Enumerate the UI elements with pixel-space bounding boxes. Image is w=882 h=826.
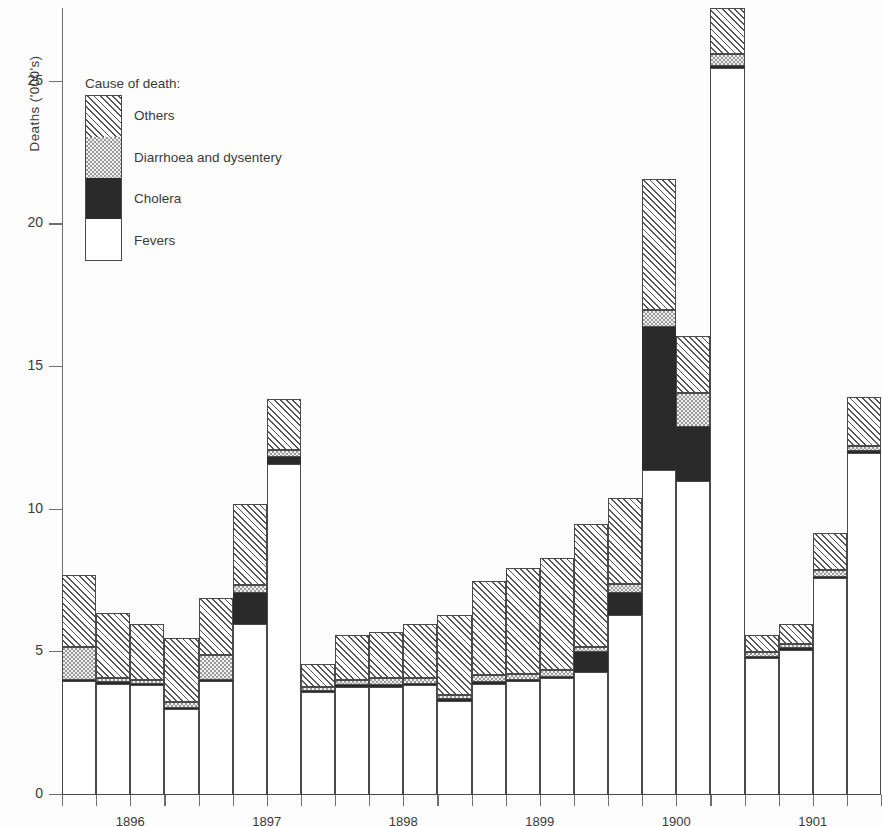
bar-segment-fevers	[62, 681, 96, 795]
bar-segment-cholera	[267, 457, 301, 464]
bar-segment-others	[301, 664, 335, 687]
bar-segment-fevers	[369, 687, 403, 795]
bar-segment-fevers	[540, 678, 574, 795]
y-tick-label-25: 25	[27, 72, 43, 88]
bar-segment-diarrhoea	[676, 393, 710, 427]
bar-segment-fevers	[779, 650, 813, 795]
bar-segment-others	[96, 613, 130, 679]
bar-segment-cholera	[608, 593, 642, 616]
bar-segment-diarrhoea	[403, 678, 437, 684]
bar-segment-others	[199, 598, 233, 655]
bar-segment-diarrhoea	[301, 687, 335, 691]
bar-segment-diarrhoea	[710, 54, 744, 67]
x-tick-6	[267, 795, 268, 806]
bar-segment-fevers	[267, 464, 301, 795]
legend-swatch-others	[86, 96, 121, 137]
bar-segment-fevers	[199, 681, 233, 795]
x-tick-10	[403, 795, 404, 806]
legend-label-diarrhoea: Diarrhoea and dysentery	[134, 137, 395, 179]
legend-label-cholera: Cholera	[134, 178, 395, 220]
x-tick-22	[813, 795, 814, 806]
x-tick-13	[506, 795, 507, 806]
x-tick-5	[233, 795, 234, 806]
bar-segment-fevers	[847, 453, 881, 795]
bar-segment-others	[369, 632, 403, 678]
x-tick-9	[369, 795, 370, 806]
bar-21	[779, 624, 813, 795]
bar-segment-diarrhoea	[233, 585, 267, 592]
bar-segment-fevers	[574, 672, 608, 795]
y-tick-label-20: 20	[27, 214, 43, 230]
bar-segment-diarrhoea	[164, 702, 198, 708]
legend: Cause of death: OthersDiarrhoea and dyse…	[85, 76, 395, 261]
bar-segment-diarrhoea	[96, 678, 130, 682]
bar-segment-fevers	[813, 578, 847, 795]
bar-3	[164, 638, 198, 795]
y-tick-25: 25	[49, 81, 62, 82]
bar-9	[369, 632, 403, 795]
bar-segment-cholera	[676, 427, 710, 481]
bar-segment-cholera	[642, 327, 676, 470]
legend-swatch-column	[85, 95, 122, 261]
bar-16	[608, 498, 642, 795]
bar-13	[506, 568, 540, 795]
bar-segment-diarrhoea	[847, 446, 881, 452]
y-tick-0: 0	[49, 794, 62, 795]
bar-segment-diarrhoea	[506, 674, 540, 680]
bar-segment-others	[710, 8, 744, 54]
bar-segment-cholera	[574, 652, 608, 672]
bar-10	[403, 624, 437, 795]
bar-segment-fevers	[676, 481, 710, 795]
bar-segment-fevers	[710, 68, 744, 795]
bar-segment-fevers	[130, 685, 164, 795]
bar-segment-others	[233, 504, 267, 585]
bar-5	[233, 504, 267, 795]
bar-segment-fevers	[608, 615, 642, 795]
bar-segment-diarrhoea	[437, 695, 471, 699]
bar-segment-others	[779, 624, 813, 644]
x-tick-0	[62, 795, 63, 806]
bar-22	[813, 533, 847, 795]
bar-segment-others	[574, 524, 608, 647]
bar-segment-diarrhoea	[369, 678, 403, 685]
x-tick-15	[574, 795, 575, 806]
bar-segment-fevers	[301, 692, 335, 795]
bar-segment-others	[62, 575, 96, 646]
x-tick-18	[676, 795, 677, 806]
bar-20	[745, 635, 779, 795]
x-tick-7	[301, 795, 302, 806]
bar-6	[267, 399, 301, 795]
bar-2	[130, 624, 164, 795]
bar-23	[847, 397, 881, 795]
y-tick-label-10: 10	[27, 500, 43, 516]
legend-swatch-fevers	[86, 219, 121, 260]
bar-segment-fevers	[233, 624, 267, 795]
bar-18	[676, 336, 710, 795]
bar-segment-diarrhoea	[62, 647, 96, 680]
bar-segment-diarrhoea	[199, 655, 233, 679]
bar-11	[437, 615, 471, 795]
x-tick-17	[642, 795, 643, 806]
x-tick-1	[96, 795, 97, 806]
y-axis-title: Deaths ('000's)	[27, 4, 42, 204]
legend-swatch-diarrhoea	[86, 137, 121, 178]
legend-title: Cause of death:	[85, 76, 395, 91]
bar-segment-others	[676, 336, 710, 393]
x-tick-16	[608, 795, 609, 806]
y-tick-label-0: 0	[35, 785, 43, 801]
bar-segment-others	[403, 624, 437, 678]
bar-segment-diarrhoea	[472, 675, 506, 682]
bar-segment-fevers	[745, 658, 779, 795]
bar-segment-cholera	[233, 593, 267, 624]
bar-segment-others	[813, 533, 847, 570]
bar-segment-others	[437, 615, 471, 695]
bar-segment-others	[540, 558, 574, 669]
bar-1	[96, 613, 130, 795]
x-tick-23	[847, 795, 848, 806]
bar-12	[472, 581, 506, 795]
bar-segment-fevers	[642, 470, 676, 795]
y-tick-10: 10	[49, 509, 62, 510]
x-axis-label-1898: 1898	[389, 814, 418, 826]
bar-segment-diarrhoea	[335, 680, 369, 686]
